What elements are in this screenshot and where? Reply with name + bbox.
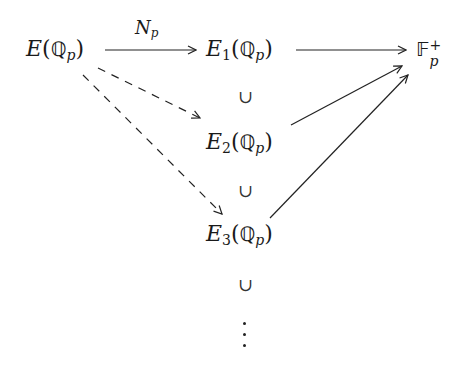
paren: ( <box>231 221 240 246</box>
node-letter: E <box>26 36 42 61</box>
paren: ( <box>231 36 240 61</box>
dot <box>243 344 246 347</box>
field-symbol: ℚ <box>240 130 256 154</box>
inclusion-E2-E1: ∪ <box>238 86 253 107</box>
subscript: p <box>429 53 438 69</box>
node-subscript: 3 <box>222 232 231 248</box>
label-letter: N <box>135 17 151 38</box>
field-subscript: p <box>255 47 264 63</box>
inclusion-next-E3: ∪ <box>238 274 253 295</box>
node-Fp-plus: 𝔽 + p <box>416 38 441 60</box>
node-letter: E <box>206 36 222 61</box>
node-subscript: 1 <box>222 47 231 63</box>
field-subscript: p <box>255 140 264 156</box>
arrow-E-to-E2-dashed <box>98 68 200 118</box>
field-symbol: ℚ <box>240 37 256 61</box>
field-symbol: 𝔽 <box>416 37 429 61</box>
label-subscript: p <box>151 26 159 40</box>
node-subscript: 2 <box>222 140 231 156</box>
node-E3-Qp: E3(ℚp) <box>206 223 273 247</box>
node-E2-Qp: E2(ℚp) <box>206 131 273 155</box>
field-symbol: ℚ <box>51 37 67 61</box>
arrow-label-Np: Np <box>135 17 158 40</box>
field-subscript: p <box>255 232 264 248</box>
node-letter: E <box>206 221 222 246</box>
superscript: + <box>429 38 441 52</box>
arrow-E2-to-Fp <box>291 66 402 125</box>
paren: ) <box>264 129 273 154</box>
node-E1-Qp: E1(ℚp) <box>206 38 273 62</box>
paren: ( <box>42 36 51 61</box>
paren: ) <box>264 221 273 246</box>
node-letter: E <box>206 129 222 154</box>
field-symbol: ℚ <box>240 222 256 246</box>
dot <box>243 333 246 336</box>
paren: ) <box>264 36 273 61</box>
arrow-E3-to-Fp <box>270 75 408 218</box>
paren: ) <box>75 36 84 61</box>
paren: ( <box>231 129 240 154</box>
arrow-E-to-E3-dashed <box>83 75 222 214</box>
node-E-Qp: E(ℚp) <box>26 38 84 62</box>
inclusion-E3-E2: ∪ <box>238 180 253 201</box>
vertical-ellipsis <box>242 322 248 355</box>
dot <box>243 322 246 325</box>
